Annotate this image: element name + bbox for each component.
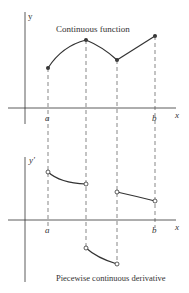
derivative-curve: [48, 172, 155, 264]
top-tick-a: a: [45, 113, 50, 123]
bottom-y-label: y': [28, 155, 36, 165]
bottom-x-label: x: [174, 222, 179, 232]
top-x-label: x: [174, 110, 179, 120]
top-y-label: y: [28, 11, 33, 21]
top-title: Continuous function: [56, 24, 130, 34]
bottom-title: Piecewise continuous derivative: [56, 273, 166, 283]
diagram: y x Continuous function a b y' x a b Pie…: [0, 0, 189, 293]
bottom-tick-a: a: [45, 225, 50, 235]
derivative-open-points: [46, 170, 157, 266]
bottom-axes: [8, 157, 176, 282]
continuous-function-curve: [48, 36, 155, 68]
bottom-tick-b: b: [152, 225, 157, 235]
dashed-guides: [48, 36, 155, 264]
top-tick-b: b: [152, 113, 157, 123]
